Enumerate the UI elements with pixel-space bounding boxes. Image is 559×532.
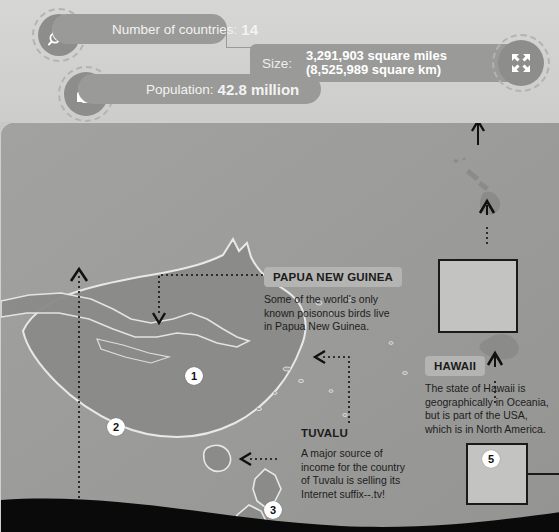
size-label: Size: bbox=[262, 56, 292, 71]
size-stat: Size: 3,291,903 square miles (8,525,989 … bbox=[250, 44, 522, 82]
population-label: Population: bbox=[146, 82, 214, 97]
oceania-map-panel: 1 2 3 4 5 PAPUA NEW GUINEA Some of the w… bbox=[0, 122, 559, 532]
callout-title: PAPUA NEW GUINEA bbox=[264, 267, 402, 287]
callout-body: Some of the world's only known poisonous… bbox=[264, 293, 399, 334]
callout-title: TUVALU bbox=[301, 427, 348, 439]
bottom-wave-decoration bbox=[1, 486, 559, 532]
callout-title: HAWAII bbox=[425, 356, 485, 376]
callout-hawaii: HAWAII The state of Hawaii is geographic… bbox=[425, 356, 559, 436]
size-value: 3,291,903 square miles (8,525,989 square… bbox=[306, 49, 447, 77]
hawaii-inset-box bbox=[438, 259, 518, 333]
callout-body: The state of Hawaii is geographically in… bbox=[425, 382, 559, 436]
expand-arrows-icon bbox=[498, 40, 544, 86]
map-marker-5[interactable]: 5 bbox=[482, 450, 500, 468]
map-marker-1[interactable]: 1 bbox=[185, 367, 203, 385]
countries-label: Number of countries: bbox=[112, 22, 237, 37]
callout-papua-new-guinea: PAPUA NEW GUINEA Some of the world's onl… bbox=[264, 267, 399, 334]
stats-header: Number of countries: 14 Population: 42.8… bbox=[0, 0, 559, 122]
countries-stat: Number of countries: 14 bbox=[52, 14, 227, 44]
map-marker-2[interactable]: 2 bbox=[107, 418, 125, 436]
easter-island-connector-line bbox=[528, 473, 559, 475]
